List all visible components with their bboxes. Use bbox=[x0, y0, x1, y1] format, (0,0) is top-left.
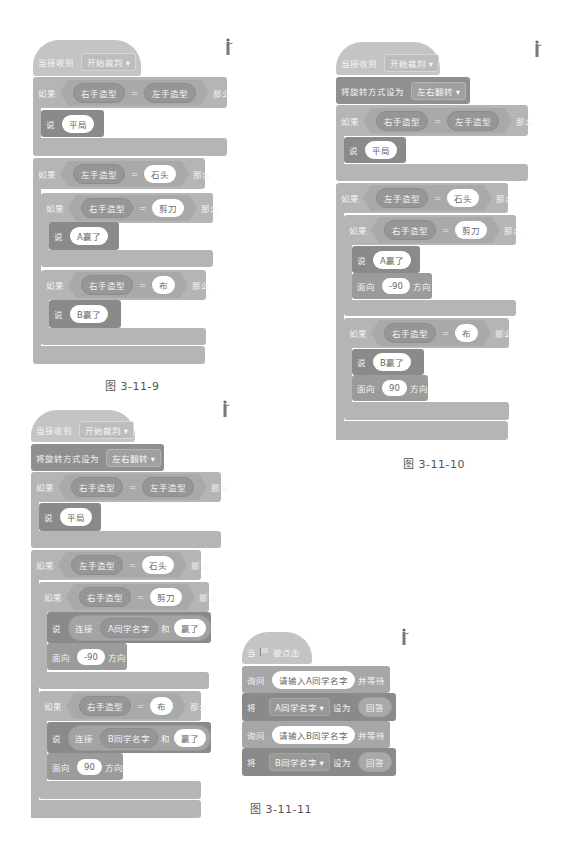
say-block[interactable]: 说 连接 B同学名字 和 赢了 bbox=[47, 722, 211, 753]
if-block-end bbox=[39, 672, 209, 689]
left-hand-reporter[interactable]: 左手造型 bbox=[142, 477, 194, 497]
when-receive-block[interactable]: 当接收到 开始裁判 bbox=[33, 40, 141, 76]
say-block[interactable]: 说 B赢了 bbox=[49, 300, 121, 328]
say-block[interactable]: 说 A赢了 bbox=[49, 222, 119, 250]
if-block[interactable]: 如果 右手造型 = 左手造型 那么 bbox=[336, 105, 528, 136]
direction-input[interactable]: 90 bbox=[382, 380, 407, 396]
right-hand-reporter[interactable]: 右手造型 bbox=[81, 275, 133, 295]
say-block[interactable]: 说 A赢了 bbox=[352, 246, 420, 273]
value-input[interactable]: 布 bbox=[152, 276, 175, 294]
set-variable-block[interactable]: 将 A同学名字 设为 回答 bbox=[242, 693, 396, 721]
value-input[interactable]: 布 bbox=[455, 324, 478, 342]
if-block[interactable]: 如果 左手造型 = 石头 那么 bbox=[336, 183, 508, 213]
ask-text-input[interactable]: 请输入A同学名字 bbox=[272, 671, 355, 689]
equals-condition[interactable]: 左手造型 = 石头 bbox=[58, 552, 187, 578]
set-rotation-style-block[interactable]: 将旋转方式设为 左右翻转 bbox=[336, 77, 470, 104]
answer-reporter[interactable]: 回答 bbox=[358, 697, 392, 717]
if-block[interactable]: 如果 右手造型 = 剪刀 那么 bbox=[39, 582, 209, 612]
say-text-input[interactable]: 平局 bbox=[60, 508, 92, 526]
say-block[interactable]: 说 平局 bbox=[39, 503, 101, 531]
if-block[interactable]: 如果 右手造型 = 左手造型 那么 bbox=[31, 472, 221, 502]
set-variable-block[interactable]: 将 B同学名字 设为 回答 bbox=[242, 748, 396, 776]
right-hand-reporter[interactable]: 右手造型 bbox=[376, 111, 428, 131]
rotation-style-dropdown[interactable]: 左右翻转 bbox=[106, 449, 161, 467]
right-hand-reporter[interactable]: 右手造型 bbox=[73, 83, 125, 103]
point-in-direction-block[interactable]: 面向 -90 方向 bbox=[352, 273, 432, 299]
say-text-input[interactable]: 平局 bbox=[365, 141, 397, 159]
right-hand-reporter[interactable]: 右手造型 bbox=[384, 220, 436, 240]
set-rotation-style-block[interactable]: 将旋转方式设为 左右翻转 bbox=[31, 444, 164, 471]
point-in-direction-block[interactable]: 面向 -90 方向 bbox=[47, 643, 127, 670]
join-operator[interactable]: 连接 B同学名字 和 赢了 bbox=[68, 725, 211, 751]
say-block[interactable]: 说 连接 A同学名字 和 赢了 bbox=[47, 612, 211, 643]
message-dropdown[interactable]: 开始裁判 bbox=[79, 421, 134, 439]
equals-condition[interactable]: 右手造型 = 剪刀 bbox=[371, 217, 500, 243]
equals-condition[interactable]: 右手造型 = 左手造型 bbox=[60, 80, 209, 106]
equals-condition[interactable]: 左手造型 = 石头 bbox=[363, 185, 492, 211]
left-hand-reporter[interactable]: 左手造型 bbox=[71, 555, 123, 575]
value-input[interactable]: 布 bbox=[150, 697, 173, 715]
if-block[interactable]: 如果 右手造型 = 剪刀 那么 bbox=[41, 193, 213, 223]
if-block[interactable]: 如果 左手造型 = 石头 那么 bbox=[31, 550, 201, 580]
if-block[interactable]: 如果 右手造型 = 布 那么 bbox=[344, 318, 509, 348]
say-text-input[interactable]: B赢了 bbox=[70, 305, 108, 323]
join-text-input[interactable]: 赢了 bbox=[174, 619, 206, 637]
ask-and-wait-block[interactable]: 询问 请输入B同学名字 并等待 bbox=[242, 721, 390, 748]
value-input[interactable]: 石头 bbox=[447, 189, 479, 207]
ask-text-input[interactable]: 请输入B同学名字 bbox=[272, 726, 355, 744]
equals-condition[interactable]: 右手造型 = 左手造型 bbox=[58, 474, 207, 500]
message-dropdown[interactable]: 开始裁判 bbox=[81, 53, 136, 71]
value-input[interactable]: 石头 bbox=[142, 556, 174, 574]
left-hand-reporter[interactable]: 左手造型 bbox=[447, 111, 499, 131]
message-dropdown[interactable]: 开始裁判 bbox=[384, 54, 439, 72]
say-block[interactable]: 说 平局 bbox=[41, 110, 104, 137]
ask-and-wait-block[interactable]: 询问 请输入A同学名字 并等待 bbox=[242, 666, 390, 693]
variable-reporter[interactable]: A同学名字 bbox=[100, 618, 158, 638]
say-text-input[interactable]: A赢了 bbox=[373, 251, 411, 269]
direction-input[interactable]: 90 bbox=[77, 759, 102, 775]
value-input[interactable]: 剪刀 bbox=[150, 588, 182, 606]
answer-reporter[interactable]: 回答 bbox=[358, 752, 392, 772]
if-block[interactable]: 如果 右手造型 = 左手造型 那么 bbox=[33, 77, 227, 108]
variable-reporter[interactable]: B同学名字 bbox=[100, 728, 158, 748]
say-text-input[interactable]: B赢了 bbox=[373, 353, 411, 371]
equals-condition[interactable]: 右手造型 = 剪刀 bbox=[66, 584, 195, 610]
equals-condition[interactable]: 左手造型 = 石头 bbox=[60, 161, 189, 187]
variable-dropdown[interactable]: A同学名字 bbox=[269, 698, 330, 716]
if-block[interactable]: 如果 左手造型 = 石头 那么 bbox=[33, 158, 205, 189]
when-flag-clicked-block[interactable]: 当 被点击 bbox=[242, 632, 312, 664]
if-block[interactable]: 如果 右手造型 = 布 那么 bbox=[41, 270, 206, 300]
value-input[interactable]: 剪刀 bbox=[455, 221, 487, 239]
right-hand-reporter[interactable]: 右手造型 bbox=[79, 696, 131, 716]
equals-condition[interactable]: 右手造型 = 布 bbox=[68, 272, 188, 298]
rotation-style-dropdown[interactable]: 左右翻转 bbox=[411, 82, 466, 100]
value-input[interactable]: 石头 bbox=[144, 165, 176, 183]
direction-input[interactable]: -90 bbox=[382, 278, 410, 294]
equals-condition[interactable]: 右手造型 = 剪刀 bbox=[68, 195, 197, 221]
left-hand-reporter[interactable]: 左手造型 bbox=[73, 164, 125, 184]
equals-condition[interactable]: 右手造型 = 布 bbox=[371, 320, 491, 346]
when-receive-block[interactable]: 当接收到 开始裁判 bbox=[31, 410, 135, 442]
right-hand-reporter[interactable]: 右手造型 bbox=[384, 323, 436, 343]
left-hand-reporter[interactable]: 左手造型 bbox=[376, 188, 428, 208]
say-block[interactable]: 说 B赢了 bbox=[352, 349, 424, 375]
right-hand-reporter[interactable]: 右手造型 bbox=[71, 477, 123, 497]
if-block[interactable]: 如果 右手造型 = 剪刀 那么 bbox=[344, 215, 516, 245]
equals-condition[interactable]: 右手造型 = 左手造型 bbox=[363, 108, 512, 134]
if-block[interactable]: 如果 右手造型 = 布 那么 bbox=[39, 691, 201, 721]
when-receive-block[interactable]: 当接收到 开始裁判 bbox=[336, 42, 440, 75]
point-in-direction-block[interactable]: 面向 90 方向 bbox=[352, 375, 428, 401]
join-operator[interactable]: 连接 A同学名字 和 赢了 bbox=[68, 615, 211, 641]
variable-dropdown[interactable]: B同学名字 bbox=[269, 753, 330, 771]
join-text-input[interactable]: 赢了 bbox=[174, 729, 206, 747]
point-in-direction-block[interactable]: 面向 90 方向 bbox=[47, 753, 123, 780]
say-block[interactable]: 说 平局 bbox=[344, 137, 406, 163]
right-hand-reporter[interactable]: 右手造型 bbox=[79, 587, 131, 607]
direction-input[interactable]: -90 bbox=[77, 649, 105, 665]
left-hand-reporter[interactable]: 左手造型 bbox=[144, 83, 196, 103]
right-hand-reporter[interactable]: 右手造型 bbox=[81, 198, 133, 218]
equals-condition[interactable]: 右手造型 = 布 bbox=[66, 693, 186, 719]
value-input[interactable]: 剪刀 bbox=[152, 199, 184, 217]
say-text-input[interactable]: 平局 bbox=[62, 115, 94, 133]
say-text-input[interactable]: A赢了 bbox=[70, 227, 108, 245]
